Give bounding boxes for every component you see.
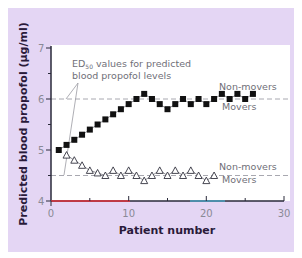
nonmover-point [56, 147, 62, 153]
y-tick-4: 4 [38, 196, 44, 207]
x-tick-30: 30 [278, 208, 291, 219]
nonmover-point [149, 96, 155, 102]
y-tick-6: 6 [38, 94, 44, 105]
lower-nonmovers-label: Non-movers [219, 161, 277, 172]
x-axis-title: Patient number [119, 224, 216, 237]
nonmover-point [118, 106, 124, 112]
y-axis-title: Predicted blood propofol (µg/ml) [17, 22, 30, 226]
nonmover-point [203, 101, 209, 107]
nonmover-point [87, 127, 93, 133]
nonmover-point [196, 96, 202, 102]
nonmover-point [180, 96, 186, 102]
nonmover-point [79, 132, 85, 138]
nonmover-point [126, 101, 132, 107]
nonmover-point [157, 101, 163, 107]
nonmover-point [172, 101, 178, 107]
nonmover-point [133, 96, 139, 102]
nonmover-point [64, 142, 70, 148]
nonmover-point [188, 101, 194, 107]
lower-movers-label: Movers [222, 174, 256, 185]
nonmover-point [110, 111, 116, 117]
x-tick-0: 0 [48, 208, 54, 219]
annotation-line2: blood propofol levels [72, 70, 171, 81]
chart-svg: ED50 values for predicted blood propofol… [0, 0, 302, 258]
x-tick-20: 20 [200, 208, 213, 219]
nonmover-point [102, 116, 108, 122]
nonmover-point [165, 106, 171, 112]
x-tick-10: 10 [122, 208, 135, 219]
upper-movers-label: Movers [222, 101, 256, 112]
upper-nonmovers-label: Non-movers [219, 81, 277, 92]
nonmover-point [141, 91, 147, 97]
y-tick-7: 7 [38, 43, 44, 54]
nonmover-point [71, 137, 77, 143]
nonmover-point [211, 96, 217, 102]
nonmover-point [95, 122, 101, 128]
y-tick-5: 5 [38, 145, 44, 156]
